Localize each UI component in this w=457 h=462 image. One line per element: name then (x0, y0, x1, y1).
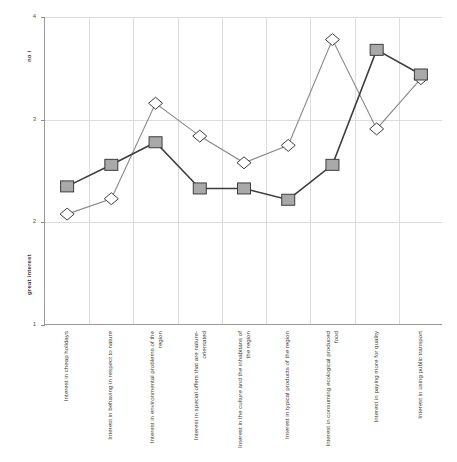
x-label-cell: Interest in typical products of the regi… (265, 327, 309, 459)
x-label-cell: Interest in the culture and the inhabita… (221, 327, 265, 459)
x-axis-label: Interest in consuming ecological produce… (324, 331, 339, 457)
y-tick-mark (41, 325, 45, 326)
marker-diamond (325, 34, 339, 46)
marker-square (193, 183, 206, 194)
y-tick-label: 4 (22, 13, 36, 19)
series-line (67, 50, 421, 200)
chart-container: no i great interest 1234 Interest in che… (0, 0, 457, 462)
x-axis-label: Interest in environmental problems of th… (147, 331, 162, 457)
x-label-cell: Interest in cheap holidays (44, 327, 88, 459)
chart-title (0, 0, 457, 7)
y-axis-top-label: no i (26, 51, 32, 62)
plot-area (44, 17, 442, 325)
x-label-cell: Interest in consuming ecological produce… (309, 327, 353, 459)
x-axis-label: Interest in behaving in respect to natur… (107, 331, 115, 457)
y-tick-label: 1 (22, 321, 36, 327)
marker-square (105, 159, 118, 170)
marker-diamond (370, 123, 384, 135)
y-tick-label: 2 (22, 218, 36, 224)
marker-diamond (281, 139, 295, 151)
marker-square (370, 44, 383, 55)
data-series-layer (45, 17, 443, 325)
x-label-cell: Interest in behaving in respect to natur… (88, 327, 132, 459)
marker-square (149, 137, 162, 148)
x-label-cell: Interest in environmental problems of th… (132, 327, 176, 459)
marker-diamond (60, 208, 74, 220)
x-axis-category-labels: Interest in cheap holidaysInterest in be… (44, 327, 442, 459)
marker-square (61, 181, 74, 192)
x-label-cell: Interest in special offers that are natu… (177, 327, 221, 459)
marker-diamond (237, 157, 251, 169)
series-square (61, 44, 428, 205)
y-axis-bottom-label: great interest (26, 254, 32, 295)
y-tick-label: 3 (22, 116, 36, 122)
x-axis-label: Interest in special offers that are natu… (191, 331, 206, 457)
x-axis-label: Interest in cheap holidays (62, 331, 70, 457)
x-axis-label: Interest in paying more for quality (372, 331, 380, 457)
x-label-cell: Interest in paying more for quality (354, 327, 398, 459)
x-label-cell: Interest in using public transport (398, 327, 442, 459)
x-axis-label: Interest in using public transport (416, 331, 424, 457)
marker-square (282, 194, 295, 205)
marker-square (238, 183, 251, 194)
marker-diamond (104, 193, 118, 205)
marker-square (414, 69, 427, 80)
x-axis-label: Interest in typical products of the regi… (283, 331, 291, 457)
marker-square (326, 159, 339, 170)
x-axis-label: Interest in the culture and the inhabita… (235, 331, 250, 457)
